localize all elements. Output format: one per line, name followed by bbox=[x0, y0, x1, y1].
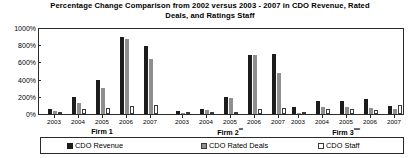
legend-item-label: CDO Revenue bbox=[75, 141, 123, 150]
legend-item: CDO Revenue bbox=[67, 141, 123, 150]
bar-staff bbox=[210, 112, 214, 114]
x-axis-tick-label: 2006 bbox=[119, 118, 133, 125]
y-axis-tick-label: 0% bbox=[26, 111, 36, 118]
bar-staff bbox=[154, 105, 158, 114]
bar-deals bbox=[393, 109, 397, 114]
white-square-swatch bbox=[318, 143, 324, 149]
bar-deals bbox=[205, 110, 209, 114]
bar-rev bbox=[248, 55, 252, 114]
bar-deals bbox=[181, 113, 185, 114]
chart-legend: CDO RevenueCDO Rated DealsCDO Staff bbox=[40, 137, 404, 154]
legend-item: CDO Rated Deals bbox=[201, 141, 268, 150]
firm-group-label: Firm 3*** bbox=[332, 127, 360, 137]
bar-deals bbox=[149, 59, 153, 114]
x-axis-tick-label: 2005 bbox=[223, 118, 237, 125]
y-axis-tick-label: 800% bbox=[18, 42, 36, 49]
black-square-swatch bbox=[67, 143, 73, 149]
firm-group-label-footnote: ** bbox=[239, 127, 243, 133]
bar-cluster bbox=[387, 105, 403, 114]
bar-staff bbox=[58, 112, 62, 114]
y-axis-tick-label: 400% bbox=[18, 76, 36, 83]
x-axis-tick-label: 2007 bbox=[387, 118, 401, 125]
x-axis-tick-label: 2007 bbox=[271, 118, 285, 125]
bar-staff bbox=[258, 109, 262, 114]
bar-staff bbox=[82, 109, 86, 114]
bar-deals bbox=[321, 107, 325, 114]
x-axis-tick-label: 2004 bbox=[315, 118, 329, 125]
bar-cluster bbox=[119, 37, 135, 114]
x-axis-tick-label: 2005 bbox=[95, 118, 109, 125]
x-axis-tick-label: 2004 bbox=[71, 118, 85, 125]
bar-cluster bbox=[199, 109, 215, 114]
bar-deals bbox=[345, 107, 349, 114]
bar-cluster bbox=[71, 97, 87, 114]
bar-rev bbox=[292, 107, 296, 114]
legend-item-label: CDO Rated Deals bbox=[209, 141, 268, 150]
firm-group-label-text: Firm 1 bbox=[91, 127, 113, 136]
y-axis-tick-mark bbox=[38, 97, 41, 98]
x-axis-tick-label: 2003 bbox=[47, 118, 61, 125]
y-axis-tick-mark bbox=[38, 80, 41, 81]
bar-rev bbox=[96, 80, 100, 114]
bar-staff bbox=[106, 108, 110, 114]
bar-rev bbox=[144, 46, 148, 114]
bar-rev bbox=[364, 99, 368, 114]
bar-cluster bbox=[175, 111, 191, 114]
bar-deals bbox=[277, 73, 281, 114]
bar-rev bbox=[200, 109, 204, 114]
x-axis-tick-label: 2006 bbox=[363, 118, 377, 125]
bar-rev bbox=[272, 54, 276, 114]
bar-deals bbox=[253, 55, 257, 114]
y-axis-tick-label: 600% bbox=[18, 59, 36, 66]
plot-area bbox=[38, 28, 404, 115]
bar-rev bbox=[388, 106, 392, 114]
chart-title: Percentage Change Comparison from 2002 v… bbox=[40, 1, 380, 20]
bar-rev bbox=[120, 37, 124, 114]
bar-cluster bbox=[339, 101, 355, 114]
bar-deals bbox=[229, 98, 233, 114]
bar-rev bbox=[48, 109, 52, 114]
x-axis-tick-label: 2003 bbox=[291, 118, 305, 125]
y-axis-tick-label: 1000% bbox=[14, 25, 36, 32]
bar-rev bbox=[316, 101, 320, 114]
bar-rev bbox=[224, 97, 228, 114]
bar-cluster bbox=[223, 97, 239, 114]
x-axis-tick-label: 2007 bbox=[143, 118, 157, 125]
firm-group-label-footnote: *** bbox=[354, 127, 360, 133]
y-axis-tick-mark bbox=[38, 28, 41, 29]
x-axis-tick-label: 2003 bbox=[175, 118, 189, 125]
bar-staff bbox=[350, 109, 354, 114]
bar-cluster bbox=[271, 54, 287, 114]
bar-staff bbox=[234, 112, 238, 114]
x-axis-tick-label: 2004 bbox=[199, 118, 213, 125]
bar-rev bbox=[340, 101, 344, 114]
bar-cluster bbox=[315, 101, 331, 114]
bar-deals bbox=[77, 103, 81, 114]
bar-staff bbox=[374, 110, 378, 114]
bar-staff bbox=[186, 112, 190, 114]
bar-staff bbox=[398, 105, 402, 114]
firm-group-label: Firm 2** bbox=[217, 127, 243, 137]
bar-staff bbox=[282, 108, 286, 114]
bar-cluster bbox=[95, 80, 111, 114]
bar-deals bbox=[101, 88, 105, 114]
bar-staff bbox=[130, 106, 134, 114]
bar-cluster bbox=[247, 55, 263, 114]
chart-container: Percentage Change Comparison from 2002 v… bbox=[0, 0, 411, 158]
y-axis-tick-label: 200% bbox=[18, 93, 36, 100]
bar-cluster bbox=[143, 46, 159, 114]
bar-rev bbox=[72, 97, 76, 114]
bar-cluster bbox=[363, 99, 379, 114]
bar-deals bbox=[125, 39, 129, 114]
bar-cluster bbox=[47, 109, 63, 114]
chart-title-line-1: Percentage Change Comparison from 2002 v… bbox=[50, 1, 309, 10]
legend-item: CDO Staff bbox=[318, 141, 360, 150]
bar-deals bbox=[297, 113, 301, 114]
bar-cluster bbox=[291, 107, 307, 114]
bar-staff bbox=[326, 109, 330, 114]
bar-deals bbox=[53, 111, 57, 114]
y-axis-tick-mark bbox=[38, 114, 41, 115]
firm-group-label: Firm 1 bbox=[91, 127, 113, 136]
y-axis-tick-mark bbox=[38, 62, 41, 63]
x-axis-tick-label: 2005 bbox=[339, 118, 353, 125]
